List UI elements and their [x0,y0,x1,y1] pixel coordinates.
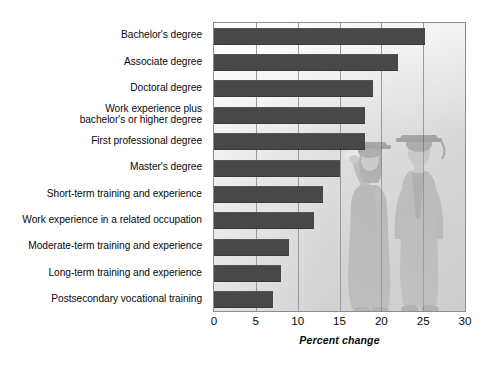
category-label: Master's degree [130,161,202,172]
category-label: Bachelor's degree [121,29,202,40]
x-tick-label: 5 [253,314,259,327]
category-label: Postsecondary vocational training [51,293,202,304]
x-tick-label: 25 [417,314,430,327]
bar [214,28,425,45]
category-label: Moderate-term training and experience [28,240,202,251]
x-tick-label: 30 [459,314,472,327]
category-label-line: bachelor's or higher degree [80,114,202,125]
category-label-line: Postsecondary vocational training [51,293,202,304]
plot-area [213,22,466,312]
category-label-line: Master's degree [130,161,202,172]
bar [214,107,365,124]
category-axis-labels: Bachelor's degreeAssociate degreeDoctora… [0,22,208,312]
category-label: First professional degree [91,135,202,146]
bar [214,291,273,308]
x-tick-label: 10 [291,314,304,327]
category-label-line: Work experience plus [80,103,202,114]
x-tick-label: 15 [333,314,346,327]
bar [214,265,281,282]
category-label-line: Long-term training and experience [48,267,202,278]
chart-figure: Bachelor's degreeAssociate degreeDoctora… [0,0,496,367]
category-label: Work experience in a related occupation [22,214,202,225]
bar [214,186,323,203]
bar-series [214,23,465,311]
bar [214,54,398,71]
x-tick-label: 0 [211,314,217,327]
category-label: Associate degree [124,56,202,67]
x-axis-title: Percent change [213,334,466,346]
bar [214,212,314,229]
bar [214,160,340,177]
bar [214,133,365,150]
category-label: Short-term training and experience [47,188,202,199]
bar [214,80,373,97]
category-label: Long-term training and experience [48,267,202,278]
category-label-line: Work experience in a related occupation [22,214,202,225]
x-axis-ticks: 051015202530 [213,312,466,332]
x-tick-label: 20 [375,314,388,327]
category-label-line: First professional degree [91,135,202,146]
category-label-line: Doctoral degree [130,82,202,93]
category-label-line: Short-term training and experience [47,188,202,199]
category-label-line: Moderate-term training and experience [28,240,202,251]
gridline-30 [465,23,466,311]
category-label: Work experience plusbachelor's or higher… [80,103,202,126]
category-label-line: Associate degree [124,56,202,67]
category-label-line: Bachelor's degree [121,29,202,40]
category-label: Doctoral degree [130,82,202,93]
bar [214,239,289,256]
